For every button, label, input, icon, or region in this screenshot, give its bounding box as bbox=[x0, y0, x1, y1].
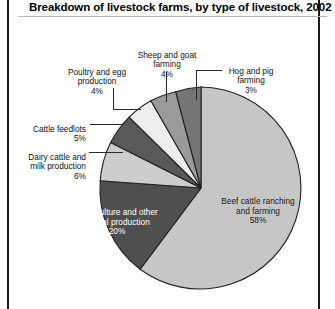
callout-poultry-and-egg-production: Poultry and egg production 4% bbox=[56, 58, 138, 96]
slice-label-beef-cattle-ranching-and-farming-text: Beef cattle ranching and farming 58% bbox=[221, 196, 294, 226]
callout-dairy-cattle-and-milk-production: Dairy cattle and milk production 6% bbox=[12, 143, 86, 181]
pie-chart: Poultry and egg production 4% Sheep and … bbox=[0, 0, 335, 309]
leader-line-cattle-feedlots bbox=[90, 124, 122, 125]
callout-cattle-feedlots-text: Cattle feedlots 5% bbox=[33, 124, 86, 144]
slice-label-aquaculture-and-other-animal-production: Aquaculture and other animal production … bbox=[58, 198, 176, 237]
leader-line-poultry-and-egg-production-elbow bbox=[113, 109, 141, 110]
callout-cattle-feedlots: Cattle feedlots 5% bbox=[14, 115, 86, 144]
callout-sheep-and-goat-farming-text: Sheep and goat farming 4% bbox=[138, 50, 197, 79]
slice-label-aquaculture-and-other-animal-production-text: Aquaculture and other animal production … bbox=[76, 207, 158, 237]
callout-hog-and-pig-farming-text: Hog and pig farming 3% bbox=[229, 66, 274, 95]
slice-label-beef-cattle-ranching-and-farming: Beef cattle ranching and farming 58% bbox=[202, 187, 314, 226]
callout-dairy-cattle-and-milk-production-text: Dairy cattle and milk production 6% bbox=[28, 152, 86, 181]
callout-hog-and-pig-farming: Hog and pig farming 3% bbox=[214, 57, 288, 95]
callout-sheep-and-goat-farming: Sheep and goat farming 4% bbox=[128, 41, 206, 79]
callout-poultry-and-egg-production-text: Poultry and egg production 4% bbox=[68, 67, 126, 96]
leader-line-dairy-cattle-and-milk-production bbox=[89, 152, 123, 153]
